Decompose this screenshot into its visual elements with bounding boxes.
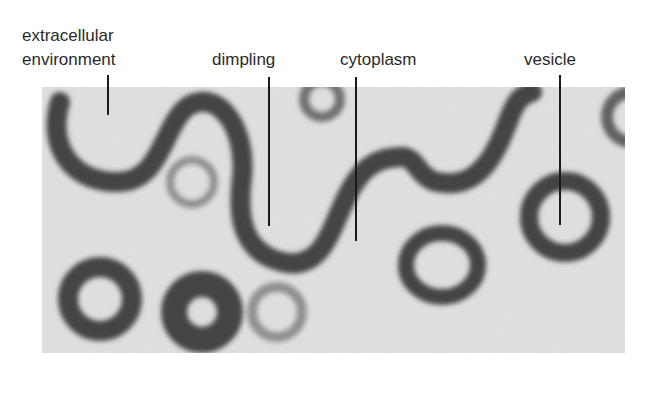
leader-line-vesicle: [559, 75, 561, 225]
label-dimpling: dimpling: [212, 50, 275, 70]
label-extracellular-line1: extracellular: [22, 26, 114, 46]
label-vesicle: vesicle: [524, 50, 576, 70]
electron-micrograph: [42, 87, 625, 353]
label-cytoplasm: cytoplasm: [340, 50, 417, 70]
micrograph-image: [42, 87, 625, 353]
leader-line-cytoplasm: [355, 77, 357, 241]
leader-line-extracellular: [107, 75, 109, 115]
leader-line-dimpling: [268, 77, 270, 226]
label-extracellular-line2: environment: [22, 50, 116, 70]
